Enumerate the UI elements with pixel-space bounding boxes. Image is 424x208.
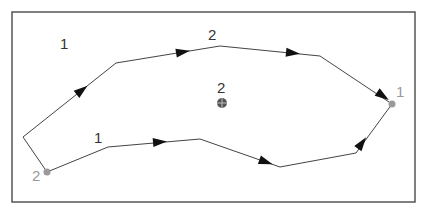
paths-group: [23, 46, 392, 172]
path-label-lower: 1: [94, 130, 102, 145]
path-2: [23, 46, 392, 172]
arrow-head-icon: [258, 155, 274, 168]
path-label-upper: 2: [208, 27, 216, 42]
center-marker: [217, 98, 227, 108]
endpoint-label-start: 2: [32, 168, 40, 183]
endpoint-end-icon: [389, 101, 396, 108]
center-label: 2: [217, 80, 225, 95]
region-label-top-left: 1: [60, 36, 68, 51]
endpoint-start-icon: [44, 169, 51, 176]
endpoint-label-end: 1: [396, 84, 404, 99]
arrow-head-icon: [286, 48, 301, 58]
arrow-head-icon: [153, 137, 168, 147]
arrow-head-icon: [175, 46, 190, 57]
arrow-head-icon: [74, 82, 91, 98]
